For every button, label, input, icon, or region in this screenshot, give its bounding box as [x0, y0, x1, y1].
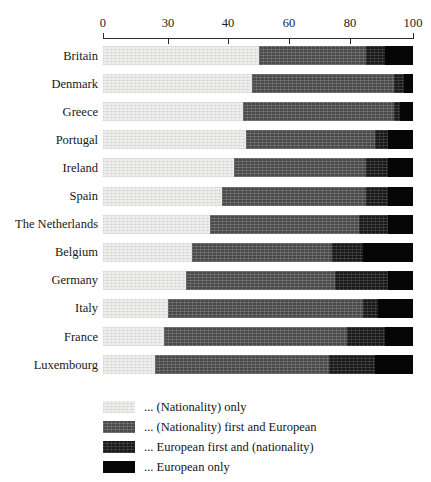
bar-segment: [103, 158, 234, 177]
legend-item: ... (Nationality) first and European: [103, 418, 317, 435]
bar-segment: [375, 355, 413, 374]
legend-swatch: [103, 461, 135, 473]
stacked-bar: [103, 271, 413, 290]
bar-row: Portugal: [0, 130, 431, 149]
bar-segment: [103, 243, 192, 262]
bar-segment: [329, 355, 376, 374]
bar-row: France: [0, 327, 431, 346]
bar-row: Italy: [0, 299, 431, 318]
stacked-bar: [103, 130, 413, 149]
bar-segment: [335, 271, 388, 290]
bar-segment: [103, 355, 155, 374]
bar-segment: [103, 187, 222, 206]
bar-row: The Netherlands: [0, 215, 431, 234]
bar-segment: [400, 102, 413, 121]
bar-segment: [363, 243, 413, 262]
stacked-bar: [103, 243, 413, 262]
category-label-britain: Britain: [63, 49, 98, 63]
bar-segment: [388, 130, 413, 149]
bar-segment: [366, 158, 388, 177]
bar-segment: [332, 243, 363, 262]
bar-row: Luxembourg: [0, 355, 431, 374]
stacked-bar-chart: 030406080100 BritainDenmarkGreecePortuga…: [0, 0, 431, 482]
category-label-ireland: Ireland: [63, 161, 98, 175]
bar-segment: [388, 215, 413, 234]
bar-segment: [366, 46, 385, 65]
stacked-bar: [103, 215, 413, 234]
bar-segment: [103, 271, 186, 290]
legend-swatch: [103, 421, 135, 433]
legend-swatch: [103, 441, 135, 453]
category-label-luxembourg: Luxembourg: [34, 358, 98, 372]
stacked-bar: [103, 102, 413, 121]
bar-segment: [103, 327, 164, 346]
stacked-bar: [103, 299, 413, 318]
bar-row: Ireland: [0, 158, 431, 177]
bar-segment: [103, 102, 243, 121]
bar-segment: [363, 299, 379, 318]
bar-segment: [388, 271, 413, 290]
legend-swatch: [103, 401, 135, 413]
legend-label: ... European only: [144, 460, 230, 474]
bar-segment: [103, 46, 259, 65]
bar-segment: [259, 46, 366, 65]
bar-segment: [359, 215, 387, 234]
bar-segment: [378, 299, 413, 318]
stacked-bar: [103, 187, 413, 206]
bar-row: Spain: [0, 187, 431, 206]
stacked-bar: [103, 46, 413, 65]
bar-segment: [164, 327, 347, 346]
category-label-portugal: Portugal: [56, 133, 98, 147]
legend-label: ... European first and (nationality): [144, 440, 314, 454]
category-label-spain: Spain: [70, 189, 98, 203]
category-label-the-netherlands: The Netherlands: [15, 217, 98, 231]
bar-row: Denmark: [0, 74, 431, 93]
bar-segment: [246, 130, 375, 149]
legend-label: ... (Nationality) only: [144, 400, 246, 414]
legend-item: ... (Nationality) only: [103, 398, 246, 415]
category-label-belgium: Belgium: [55, 245, 98, 259]
category-label-france: France: [64, 330, 98, 344]
stacked-bar: [103, 158, 413, 177]
bar-segment: [347, 327, 385, 346]
bar-segment: [404, 74, 413, 93]
bar-segment: [192, 243, 332, 262]
bar-segment: [103, 215, 210, 234]
bar-segment: [234, 158, 366, 177]
bar-segment: [385, 46, 413, 65]
category-label-greece: Greece: [63, 105, 98, 119]
bar-rows: BritainDenmarkGreecePortugalIrelandSpain…: [0, 0, 431, 400]
legend-item: ... European only: [103, 458, 230, 475]
bar-segment: [103, 74, 252, 93]
bar-segment: [186, 271, 335, 290]
bar-segment: [103, 299, 168, 318]
category-label-italy: Italy: [75, 301, 98, 315]
bar-segment: [222, 187, 366, 206]
bar-segment: [366, 187, 388, 206]
category-label-denmark: Denmark: [51, 77, 98, 91]
bar-segment: [388, 158, 413, 177]
bar-row: Belgium: [0, 243, 431, 262]
bar-segment: [388, 187, 413, 206]
bar-segment: [394, 74, 403, 93]
bar-row: Greece: [0, 102, 431, 121]
stacked-bar: [103, 327, 413, 346]
bar-segment: [375, 130, 388, 149]
bar-segment: [155, 355, 329, 374]
bar-segment: [103, 130, 246, 149]
legend-item: ... European first and (nationality): [103, 438, 314, 455]
legend-label: ... (Nationality) first and European: [144, 420, 317, 434]
stacked-bar: [103, 74, 413, 93]
bar-segment: [168, 299, 363, 318]
stacked-bar: [103, 355, 413, 374]
bar-segment: [385, 327, 413, 346]
bar-segment: [210, 215, 359, 234]
category-label-germany: Germany: [51, 273, 98, 287]
bar-segment: [252, 74, 394, 93]
bar-row: Britain: [0, 46, 431, 65]
bar-row: Germany: [0, 271, 431, 290]
bar-segment: [243, 102, 394, 121]
